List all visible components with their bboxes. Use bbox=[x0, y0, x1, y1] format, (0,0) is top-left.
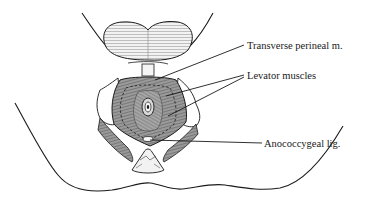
leader-anococcygeal bbox=[150, 140, 262, 143]
levator-muscle-region bbox=[112, 77, 187, 146]
label-levator-muscles: Levator muscles bbox=[247, 71, 316, 82]
anococcygeal-node bbox=[143, 137, 153, 142]
coccyx bbox=[132, 149, 164, 173]
perineum-illustration bbox=[0, 0, 365, 207]
anatomy-figure: Transverse perineal m. Levator muscles A… bbox=[0, 0, 365, 207]
upper-structure bbox=[104, 21, 193, 60]
label-transverse-perineal: Transverse perineal m. bbox=[247, 41, 343, 52]
central-stem bbox=[128, 62, 168, 76]
label-anococcygeal-lig: Anococcygeal lig. bbox=[264, 139, 340, 150]
